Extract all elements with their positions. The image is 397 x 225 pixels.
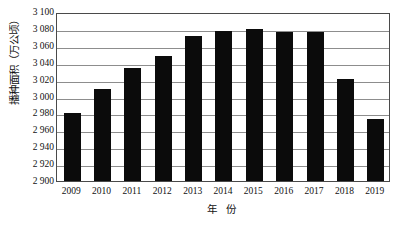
bar (94, 89, 111, 181)
x-axis-tick-label: 2017 (299, 185, 329, 197)
bar (246, 29, 263, 181)
y-axis-tick-label: 3 080 (18, 25, 54, 35)
y-axis-tick-label: 2 980 (18, 109, 54, 119)
bar (64, 113, 81, 181)
y-axis-tick-label: 2 900 (18, 177, 54, 187)
bar-chart-figure: 播种面积（万公顷） 3 1003 0803 0603 0403 0203 000… (0, 0, 397, 225)
x-axis-title: 年 份 (56, 203, 390, 216)
x-axis-tick-label: 2015 (238, 185, 268, 197)
bar (124, 68, 141, 181)
bar (337, 79, 354, 181)
x-axis-tick-label: 2011 (117, 185, 147, 197)
y-axis-tick-label: 2 940 (18, 143, 54, 153)
x-axis-tick-label: 2019 (360, 185, 390, 197)
y-axis-tick-label: 3 000 (18, 93, 54, 103)
y-axis-tick-label: 3 020 (18, 76, 54, 86)
bar (307, 32, 324, 181)
bar (276, 32, 293, 181)
x-axis-tick-label: 2016 (269, 185, 299, 197)
y-axis-tick-label: 2 920 (18, 160, 54, 170)
x-axis-tick-label: 2018 (329, 185, 359, 197)
x-axis-tick-labels: 2009201020112012201320142015201620172018… (56, 185, 390, 199)
y-axis-tick-label: 2 960 (18, 126, 54, 136)
y-axis-tick-label: 3 100 (18, 8, 54, 18)
x-axis-tick-label: 2014 (208, 185, 238, 197)
y-axis-tick-label: 3 040 (18, 59, 54, 69)
y-axis-tick-labels: 3 1003 0803 0603 0403 0203 0002 9802 960… (18, 0, 54, 225)
bar (367, 119, 384, 181)
plot-area (56, 13, 390, 182)
bar (155, 56, 172, 181)
bar (185, 36, 202, 181)
bar (215, 31, 232, 181)
x-axis-tick-label: 2009 (56, 185, 86, 197)
bars-group (57, 14, 389, 181)
x-axis-tick-label: 2012 (147, 185, 177, 197)
x-axis-tick-label: 2010 (86, 185, 116, 197)
y-axis-tick-label: 3 060 (18, 42, 54, 52)
x-axis-tick-label: 2013 (177, 185, 207, 197)
